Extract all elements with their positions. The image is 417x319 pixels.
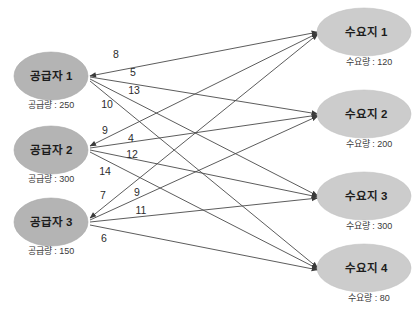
edge-cost-s2-d1: 9 bbox=[102, 124, 108, 136]
supplier-1-supply-caption: 공급량 : 250 bbox=[28, 99, 75, 110]
edge-cost-s3-d3: 11 bbox=[136, 204, 147, 216]
demand-1-label: 수요지 1 bbox=[345, 25, 388, 38]
supplier-2-label: 공급자 2 bbox=[30, 143, 73, 156]
edge-cost-s1-d4: 10 bbox=[101, 98, 113, 110]
demand-3-label: 수요지 3 bbox=[345, 189, 388, 202]
edge-cost-s1-d3: 13 bbox=[128, 84, 140, 96]
edge-s1-d3 bbox=[90, 79, 318, 196]
supplier-1-label: 공급자 1 bbox=[30, 69, 73, 82]
demand-node-4[interactable]: 수요지 4 수요량 : 80 bbox=[317, 244, 411, 303]
edge-cost-s1-d2: 5 bbox=[130, 66, 136, 78]
supplier-node-2[interactable]: 공급자 2 공급량 : 300 bbox=[14, 126, 88, 184]
edge-s3-d4 bbox=[90, 225, 318, 270]
demand-2-demand-caption: 수요량 : 200 bbox=[346, 138, 393, 149]
demand-1-demand-caption: 수요량 : 120 bbox=[346, 56, 393, 67]
edge-s1-d1 bbox=[90, 32, 318, 76]
network-canvas: 공급자 1 공급량 : 250 공급자 2 공급량 : 300 공급자 3 공급… bbox=[0, 0, 417, 319]
edge-cost-s2-d4: 14 bbox=[99, 165, 111, 177]
demand-4-label: 수요지 4 bbox=[345, 261, 388, 274]
supplier-2-supply-caption: 공급량 : 300 bbox=[28, 173, 75, 184]
edge-s1-d4 bbox=[90, 81, 318, 268]
edge-s1-d2 bbox=[90, 77, 318, 114]
edge-s3-d3 bbox=[90, 198, 318, 222]
edge-cost-s2-d2: 4 bbox=[128, 132, 134, 144]
edge-s2-d4 bbox=[90, 152, 318, 269]
transportation-network-diagram: 공급자 1 공급량 : 250 공급자 2 공급량 : 300 공급자 3 공급… bbox=[0, 0, 417, 319]
edge-cost-s3-d1: 7 bbox=[100, 189, 106, 201]
supplier-3-supply-caption: 공급량 : 150 bbox=[28, 245, 75, 256]
edge-cost-s1-d1: 8 bbox=[113, 48, 119, 60]
edge-cost-s3-d4: 6 bbox=[101, 232, 107, 244]
demand-node-3[interactable]: 수요지 3 수요량 : 300 bbox=[317, 172, 411, 231]
supplier-node-1[interactable]: 공급자 1 공급량 : 250 bbox=[14, 52, 88, 110]
supplier-node-3[interactable]: 공급자 3 공급량 : 150 bbox=[14, 198, 88, 256]
edge-cost-s3-d2: 9 bbox=[134, 186, 140, 198]
edge-cost-s2-d3: 12 bbox=[126, 148, 138, 160]
supplier-3-label: 공급자 3 bbox=[30, 215, 73, 228]
demand-2-label: 수요지 2 bbox=[345, 107, 388, 120]
edge-group bbox=[90, 32, 318, 270]
demand-3-demand-caption: 수요량 : 300 bbox=[346, 220, 393, 231]
demand-node-1[interactable]: 수요지 1 수요량 : 120 bbox=[317, 8, 411, 67]
demand-node-2[interactable]: 수요지 2 수요량 : 200 bbox=[317, 90, 411, 149]
edge-s2-d1 bbox=[90, 33, 318, 146]
demand-4-demand-caption: 수요량 : 80 bbox=[348, 292, 390, 303]
